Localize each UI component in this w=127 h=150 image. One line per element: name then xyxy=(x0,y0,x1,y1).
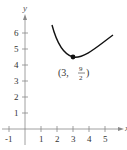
x-tick-label: -1 xyxy=(5,134,13,144)
y-tick-label: 1 xyxy=(14,108,19,118)
x-tick-label: 2 xyxy=(55,134,60,144)
x-tick-label: 5 xyxy=(103,134,108,144)
y-tick-labels: 1 2 3 4 5 6 xyxy=(14,28,19,118)
y-tick-label: 5 xyxy=(14,44,19,54)
chart: x y -1 1 2 3 4 5 1 2 3 4 5 6 xyxy=(0,0,127,150)
x-tick-label: 4 xyxy=(87,134,92,144)
x-axis-label: x xyxy=(124,123,127,133)
y-axis: y xyxy=(22,3,27,145)
y-axis-arrow-icon xyxy=(23,14,27,20)
minimum-point xyxy=(71,55,76,60)
x-tick-label: 1 xyxy=(39,134,44,144)
point-label-denominator: 2 xyxy=(79,74,83,82)
y-tick-label: 6 xyxy=(14,28,19,38)
point-label-open: (3, xyxy=(58,67,69,79)
x-tick-label: 3 xyxy=(71,134,76,144)
point-label-close: ) xyxy=(86,67,89,79)
y-tick-label: 3 xyxy=(14,76,19,86)
y-tick-label: 4 xyxy=(14,60,19,70)
y-tick-label: 2 xyxy=(14,92,19,102)
point-label-numerator: 9 xyxy=(79,65,83,73)
y-axis-label: y xyxy=(22,3,27,13)
curve xyxy=(52,25,113,57)
x-axis-arrow-icon xyxy=(118,127,124,131)
x-tick-labels: -1 1 2 3 4 5 xyxy=(5,134,108,144)
point-label: (3, 9 2 ) xyxy=(58,65,89,82)
x-axis: x xyxy=(2,123,127,133)
